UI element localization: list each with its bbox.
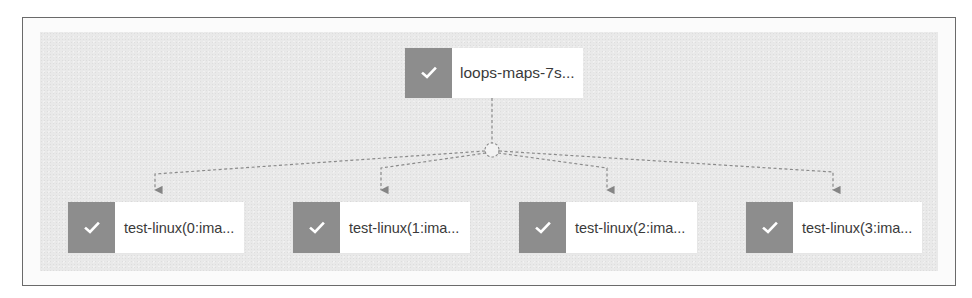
- node-label: loops-maps-7s...: [452, 48, 583, 98]
- node-status-badge: [405, 48, 452, 98]
- check-icon: [421, 66, 437, 80]
- node-label: test-linux(0:ima...: [115, 202, 244, 253]
- node-status-badge: [519, 202, 566, 253]
- node-status-badge: [68, 202, 115, 253]
- check-icon: [309, 221, 325, 235]
- workflow-node-child-0[interactable]: test-linux(0:ima...: [68, 202, 244, 253]
- node-label: test-linux(2:ima...: [566, 202, 697, 253]
- workflow-node-child-2[interactable]: test-linux(2:ima...: [519, 202, 697, 253]
- workflow-node-child-3[interactable]: test-linux(3:ima...: [746, 202, 922, 253]
- node-status-badge: [293, 202, 340, 253]
- workflow-node-child-1[interactable]: test-linux(1:ima...: [293, 202, 470, 253]
- check-icon: [762, 221, 778, 235]
- workflow-node-root[interactable]: loops-maps-7s...: [405, 48, 583, 98]
- node-label: test-linux(1:ima...: [340, 202, 470, 253]
- check-icon: [84, 221, 100, 235]
- node-label: test-linux(3:ima...: [793, 202, 922, 253]
- node-status-badge: [746, 202, 793, 253]
- check-icon: [535, 221, 551, 235]
